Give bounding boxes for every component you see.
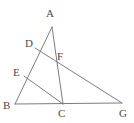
vertex-label-b: B <box>3 100 10 111</box>
segment-B-G <box>15 103 122 104</box>
vertex-label-a: A <box>46 8 54 19</box>
vertex-label-e: E <box>13 67 20 78</box>
segment-A-C <box>52 27 63 104</box>
vertex-label-f: F <box>57 51 63 62</box>
geometry-figure-svg <box>0 0 134 123</box>
vertex-label-g: G <box>119 108 127 119</box>
geometry-diagram: A B C D E F G <box>0 0 134 123</box>
segment-E-C <box>24 76 63 104</box>
segment-D-G <box>35 48 122 103</box>
vertex-label-c: C <box>58 108 65 119</box>
vertex-label-d: D <box>25 38 33 49</box>
